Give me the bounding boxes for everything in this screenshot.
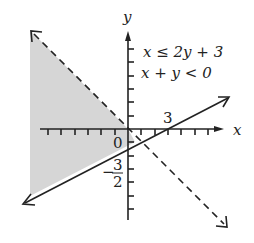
inequality-2: x + y < 0	[141, 64, 212, 82]
svg-text:3: 3	[113, 156, 123, 174]
inequality-graph: y x 3 0 − 3 2 x ≤ 2y + 3 x + y < 0	[0, 0, 254, 243]
origin-label: 0	[113, 134, 123, 152]
y-axis	[125, 31, 134, 220]
y-axis-label: y	[122, 8, 132, 26]
svg-text:2: 2	[113, 173, 123, 191]
x-axis-label: x	[233, 121, 242, 139]
x-tick-label-3: 3	[163, 109, 173, 127]
inequality-1: x ≤ 2y + 3	[143, 43, 223, 61]
